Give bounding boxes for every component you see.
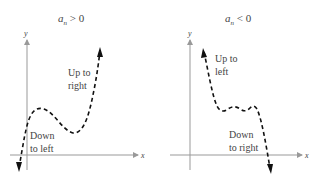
left-y-label: y (23, 29, 28, 38)
left-arrow-down-icon (16, 162, 22, 172)
left-x-label: x (140, 151, 145, 160)
left-title: an > 0 (58, 12, 85, 27)
left-annotation-bottom: Down to left (30, 130, 57, 154)
left-annotation-top: Up to right (68, 67, 93, 91)
right-graph: an < 0 y x Up to left Down to right (170, 12, 309, 174)
left-arrow-up-icon (97, 47, 103, 57)
right-arrow-up-icon (201, 48, 207, 58)
end-behavior-diagram: an > 0 y x Up to right Down to left an <… (0, 0, 320, 179)
right-annotation-bottom: Down to right (229, 129, 258, 153)
right-x-label: x (304, 151, 309, 160)
right-arrow-down-icon (267, 164, 273, 174)
right-y-label: y (187, 29, 192, 38)
right-annotation-top: Up to left (215, 53, 240, 77)
left-graph: an > 0 y x Up to right Down to left (10, 12, 145, 172)
right-title: an < 0 (225, 12, 252, 27)
